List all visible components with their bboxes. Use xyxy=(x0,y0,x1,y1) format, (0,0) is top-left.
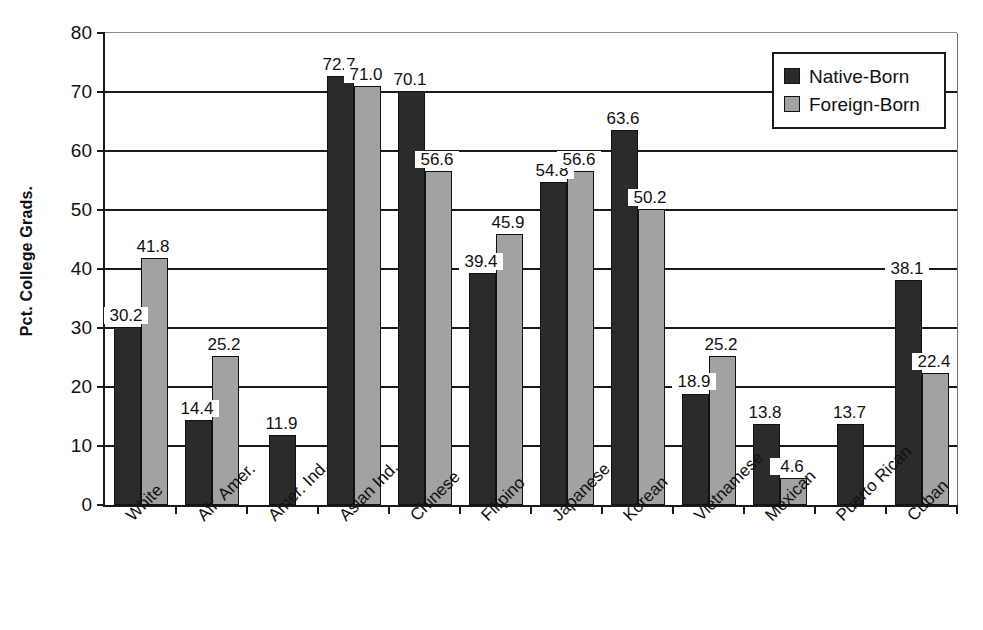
plot-right-border xyxy=(957,33,958,505)
y-axis-tick xyxy=(97,504,105,506)
bar-value-label: 18.9 xyxy=(672,373,716,390)
bar-chart: Pct. College Grads. Native-Born Foreign-… xyxy=(0,0,983,630)
gridline xyxy=(105,150,957,152)
x-axis-tick xyxy=(885,505,887,514)
x-axis-tick xyxy=(530,505,532,514)
bar-foreign-born xyxy=(141,258,168,505)
bar-native-born xyxy=(114,327,141,505)
x-axis-tick xyxy=(672,505,674,514)
bar-value-label: 70.1 xyxy=(388,71,432,88)
bar-value-label: 30.2 xyxy=(104,307,148,324)
y-axis-tick xyxy=(97,209,105,211)
bar-native-born xyxy=(185,420,212,505)
legend-entry-foreign-born: Foreign-Born xyxy=(784,90,934,118)
bar-value-label: 63.6 xyxy=(601,110,645,127)
y-axis-tick xyxy=(97,268,105,270)
y-axis-tick-label: 10 xyxy=(40,436,92,455)
bar-value-label: 56.6 xyxy=(557,151,601,168)
gridline xyxy=(105,209,957,211)
legend-label-foreign-born: Foreign-Born xyxy=(809,95,920,114)
bar-value-label: 14.4 xyxy=(175,400,219,417)
bar-value-label: 13.8 xyxy=(743,404,787,421)
y-axis-tick xyxy=(97,150,105,152)
x-axis-tick xyxy=(814,505,816,514)
x-axis-tick xyxy=(175,505,177,514)
gridline xyxy=(105,32,957,33)
y-axis-tick xyxy=(97,91,105,93)
x-axis-tick xyxy=(388,505,390,514)
bar-native-born xyxy=(540,182,567,505)
x-axis-tick xyxy=(317,505,319,514)
gridline xyxy=(105,268,957,270)
y-axis-tick-label: 70 xyxy=(40,82,92,101)
y-axis-tick-label: 60 xyxy=(40,141,92,160)
bar-foreign-born xyxy=(638,209,665,505)
bar-foreign-born xyxy=(425,171,452,505)
bar-value-label: 25.2 xyxy=(699,336,743,353)
y-axis-tick-label: 80 xyxy=(40,23,92,42)
y-axis-tick-label: 50 xyxy=(40,200,92,219)
x-axis-tick xyxy=(459,505,461,514)
bar-value-label: 38.1 xyxy=(885,260,929,277)
y-axis-title: Pct. College Grads. xyxy=(18,146,36,376)
bar-value-label: 39.4 xyxy=(459,253,503,270)
y-axis-tick-label: 20 xyxy=(40,377,92,396)
y-axis-tick xyxy=(97,386,105,388)
bar-value-label: 41.8 xyxy=(131,238,175,255)
bar-foreign-born xyxy=(354,86,381,505)
chart-legend: Native-Born Foreign-Born xyxy=(772,52,946,129)
bar-value-label: 22.4 xyxy=(912,353,956,370)
y-axis-tick xyxy=(97,445,105,447)
y-axis-tick-label: 30 xyxy=(40,318,92,337)
bar-native-born xyxy=(469,273,496,505)
x-axis-tick xyxy=(601,505,603,514)
bar-value-label: 11.9 xyxy=(260,415,304,432)
bar-foreign-born xyxy=(496,234,523,505)
bar-value-label: 13.7 xyxy=(828,404,872,421)
x-axis-tick xyxy=(246,505,248,514)
legend-entry-native-born: Native-Born xyxy=(784,62,934,90)
y-axis-tick-label: 0 xyxy=(40,495,92,514)
bar-value-label: 50.2 xyxy=(628,189,672,206)
bar-native-born xyxy=(682,394,709,506)
bar-value-label: 45.9 xyxy=(486,214,530,231)
y-axis-tick xyxy=(97,327,105,329)
bar-value-label: 56.6 xyxy=(415,151,459,168)
bar-native-born xyxy=(611,130,638,505)
x-axis-tick xyxy=(956,505,958,514)
bar-value-label: 71.0 xyxy=(344,66,388,83)
legend-swatch-icon-native-born xyxy=(784,68,800,84)
y-axis-tick xyxy=(97,32,105,34)
bar-foreign-born xyxy=(567,171,594,505)
legend-swatch-icon-foreign-born xyxy=(784,96,800,112)
x-axis-tick xyxy=(743,505,745,514)
y-axis-tick-label: 40 xyxy=(40,259,92,278)
gridline xyxy=(105,327,957,329)
bar-value-label: 25.2 xyxy=(202,336,246,353)
bar-native-born xyxy=(327,76,354,505)
legend-label-native-born: Native-Born xyxy=(809,67,909,86)
